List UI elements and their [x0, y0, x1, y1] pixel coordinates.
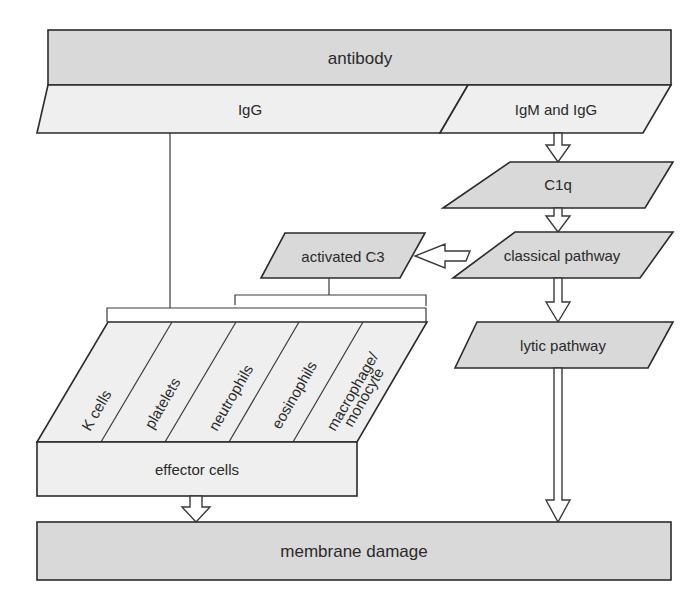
antibody-effector-diagram: antibody IgG IgM and IgG C1q classical p…: [0, 0, 700, 607]
igg-bracket: [107, 308, 426, 322]
activated-c3-bracket: [235, 278, 426, 306]
membrane-damage-node: membrane damage: [37, 522, 671, 580]
classical-pathway-label: classical pathway: [504, 247, 621, 264]
antibody-label: antibody: [328, 49, 393, 68]
arrow-igm-to-c1q: [546, 133, 570, 162]
activated-c3-label: activated C3: [301, 248, 384, 265]
arrow-c1q-to-classical: [546, 208, 570, 232]
c1q-node: C1q: [443, 162, 673, 208]
lytic-pathway-node: lytic pathway: [455, 322, 673, 368]
c1q-label: C1q: [544, 176, 572, 193]
arrow-classical-to-lytic: [546, 278, 570, 322]
igg-label: IgG: [238, 101, 262, 118]
effector-cells-node: effector cells: [37, 442, 357, 496]
arrow-classical-to-activated-c3: [415, 244, 470, 268]
membrane-damage-label: membrane damage: [280, 542, 427, 561]
arrow-effector-to-membrane-damage: [182, 496, 210, 522]
antibody-node: antibody: [48, 30, 671, 85]
classical-pathway-node: classical pathway: [453, 232, 673, 278]
igm-igg-label: IgM and IgG: [515, 101, 598, 118]
activated-c3-node: activated C3: [261, 233, 425, 278]
igg-node: IgG: [37, 85, 468, 133]
lytic-pathway-label: lytic pathway: [520, 337, 606, 354]
effector-cells-label: effector cells: [155, 461, 239, 478]
igm-igg-node: IgM and IgG: [440, 85, 671, 133]
effector-cell-types: K cells platelets neutrophils eosinophil…: [37, 322, 427, 442]
arrow-lytic-to-membrane-damage: [546, 368, 570, 522]
